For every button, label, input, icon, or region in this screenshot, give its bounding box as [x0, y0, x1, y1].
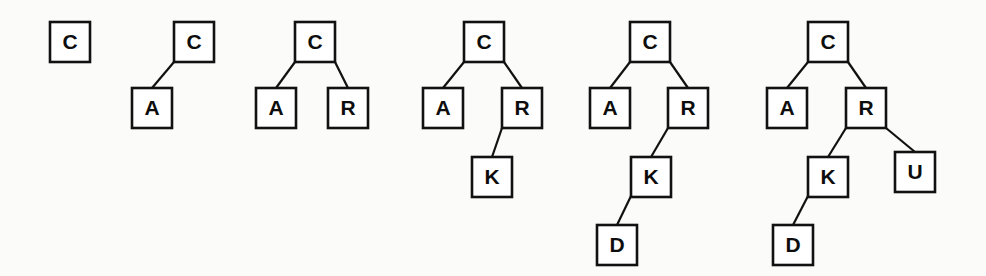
tree-edge — [793, 196, 808, 225]
tree-edges-stage-6 — [787, 62, 915, 225]
tree-edges-stage-5 — [610, 62, 688, 225]
tree-stage-2: CA — [132, 22, 214, 128]
node-label: K — [643, 165, 658, 188]
tree-node-c: C — [630, 22, 670, 62]
tree-edge — [276, 62, 295, 88]
tree-node-k: K — [808, 157, 848, 197]
tree-edge — [848, 62, 866, 88]
bst-insertion-diagram: CCACARCARKCARKDCARKUD — [0, 0, 986, 276]
node-label: C — [642, 30, 657, 53]
tree-node-k: K — [472, 157, 512, 197]
nodes-layer: CCACARCARKCARKDCARKUD — [50, 22, 935, 265]
tree-node-a: A — [256, 88, 296, 128]
tree-edge — [886, 128, 915, 152]
node-label: D — [609, 233, 624, 256]
tree-edge — [651, 128, 668, 157]
tree-stage-4: CARK — [423, 22, 542, 197]
tree-node-c: C — [808, 22, 848, 62]
node-label: A — [268, 96, 283, 119]
node-label: R — [514, 96, 529, 119]
tree-edge — [492, 128, 502, 157]
tree-stage-5: CARKD — [590, 22, 708, 265]
tree-edge — [787, 62, 808, 88]
tree-edges-stage-3 — [276, 62, 348, 88]
node-label: K — [820, 165, 835, 188]
node-label: K — [484, 165, 499, 188]
node-label: A — [435, 96, 450, 119]
node-label: A — [779, 96, 794, 119]
node-label: C — [62, 30, 77, 53]
node-label: C — [186, 30, 201, 53]
node-label: R — [858, 96, 873, 119]
node-label: R — [340, 96, 355, 119]
tree-node-d: D — [773, 225, 813, 265]
tree-node-r: R — [668, 88, 708, 128]
tree-node-a: A — [132, 88, 172, 128]
tree-node-a: A — [590, 88, 630, 128]
tree-node-a: A — [423, 88, 463, 128]
node-label: C — [820, 30, 835, 53]
node-label: U — [907, 160, 922, 183]
tree-node-c: C — [295, 22, 335, 62]
node-label: C — [307, 30, 322, 53]
tree-node-r: R — [846, 88, 886, 128]
tree-stage-6: CARKUD — [767, 22, 935, 265]
tree-edge — [152, 62, 174, 88]
tree-edge — [670, 62, 688, 88]
tree-edge — [443, 62, 464, 88]
node-label: A — [602, 96, 617, 119]
tree-node-k: K — [631, 157, 671, 197]
tree-edge — [617, 196, 631, 225]
tree-edge — [610, 62, 630, 88]
tree-node-a: A — [767, 88, 807, 128]
tree-edge — [504, 62, 522, 88]
tree-canvas: CCACARCARKCARKDCARKUD — [0, 0, 986, 276]
tree-edge — [828, 128, 846, 157]
tree-edge — [335, 62, 348, 88]
tree-node-r: R — [328, 88, 368, 128]
node-label: R — [680, 96, 695, 119]
node-label: C — [476, 30, 491, 53]
node-label: D — [785, 233, 800, 256]
tree-stage-3: CAR — [256, 22, 368, 128]
tree-node-r: R — [502, 88, 542, 128]
edges-layer — [152, 62, 915, 225]
tree-node-c: C — [464, 22, 504, 62]
tree-node-c: C — [50, 22, 90, 62]
node-label: A — [144, 96, 159, 119]
tree-stage-1: C — [50, 22, 90, 62]
tree-node-d: D — [597, 225, 637, 265]
tree-edges-stage-2 — [152, 62, 174, 88]
tree-node-u: U — [895, 152, 935, 192]
tree-node-c: C — [174, 22, 214, 62]
